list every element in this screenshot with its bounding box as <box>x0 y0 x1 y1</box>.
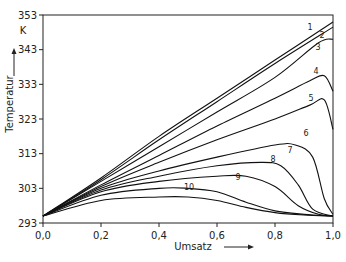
y-unit-label: K <box>20 25 27 36</box>
x-arrowhead-icon <box>248 245 254 250</box>
curve-label-8: 8 <box>270 155 275 164</box>
curve-label-6: 6 <box>303 129 308 138</box>
curve-label-9: 9 <box>235 173 240 182</box>
axes: 2933033133233333433530,00,20,40,60,81,0 <box>18 10 341 242</box>
x-tick-label: 0,0 <box>35 230 51 241</box>
y-axis-label: Temperatur <box>4 74 15 133</box>
curve-label-4: 4 <box>313 67 318 76</box>
x-tick-label: 0,2 <box>93 230 109 241</box>
curve-label-7: 7 <box>287 146 292 155</box>
curve-label-2: 2 <box>319 31 324 40</box>
y-tick-label: 343 <box>18 44 37 55</box>
curve-label-3: 3 <box>315 43 320 52</box>
x-tick-label: 1,0 <box>325 230 341 241</box>
y-tick-label: 353 <box>18 10 37 21</box>
temperature-conversion-chart: 2933033133233333433530,00,20,40,60,81,0 … <box>0 0 346 262</box>
labels: UmsatzKTemperatur12345678910 <box>4 23 325 252</box>
y-tick-label: 303 <box>18 183 37 194</box>
curve-label-5: 5 <box>308 94 313 103</box>
x-tick-label: 0,4 <box>151 230 167 241</box>
y-tick-label: 333 <box>18 79 37 90</box>
y-tick-label: 313 <box>18 148 37 159</box>
curve-label-1: 1 <box>307 23 312 32</box>
x-tick-label: 0,6 <box>209 230 225 241</box>
y-tick-label: 293 <box>18 218 37 229</box>
x-axis-label: Umsatz <box>174 241 212 252</box>
y-arrowhead-icon <box>12 48 17 54</box>
curve-label-10: 10 <box>184 183 194 192</box>
x-tick-label: 0,8 <box>267 230 283 241</box>
y-tick-label: 323 <box>18 114 37 125</box>
